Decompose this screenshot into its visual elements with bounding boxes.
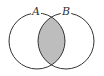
set-a-label: A — [31, 5, 40, 18]
set-b-label: B — [61, 5, 70, 18]
venn-diagram: A B — [0, 0, 104, 76]
